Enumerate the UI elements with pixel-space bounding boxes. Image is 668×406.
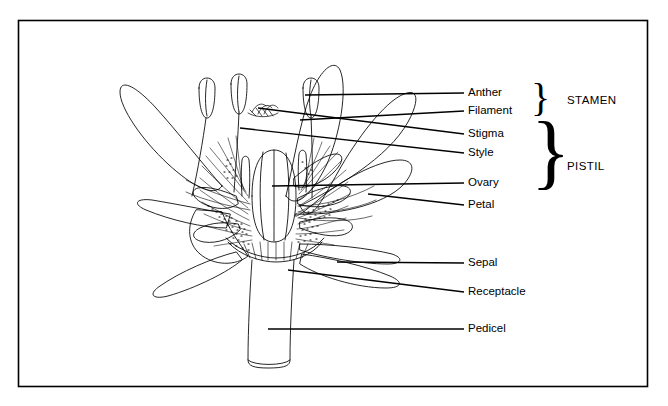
label-stigma: Stigma [468, 127, 504, 139]
label-style: Style [468, 146, 494, 158]
label-anther: Anther [468, 86, 502, 98]
label-ovary: Ovary [468, 176, 499, 188]
label-pedicel: Pedicel [468, 322, 506, 334]
group-label-pistil: PISTIL [567, 160, 605, 172]
brace-pistil: } [531, 106, 570, 197]
label-receptacle: Receptacle [468, 285, 526, 297]
figure-border [19, 21, 648, 387]
label-petal: Petal [468, 198, 494, 210]
label-filament: Filament [468, 104, 513, 116]
flower-diagram-figure: Anther Filament Stigma Style Ovary Petal… [0, 0, 668, 406]
group-label-stamen: STAMEN [567, 94, 616, 106]
diagram-canvas: Anther Filament Stigma Style Ovary Petal… [0, 0, 668, 406]
label-sepal: Sepal [468, 256, 497, 268]
